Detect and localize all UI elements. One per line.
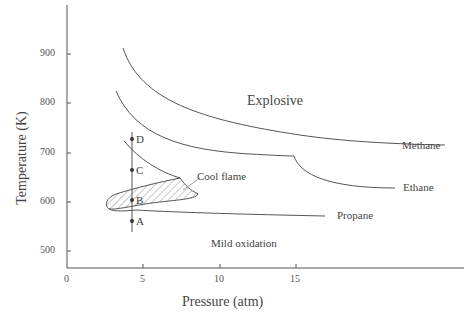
y-tick-700: 700: [40, 146, 55, 157]
mild-oxidation-label: Mild oxidation: [211, 237, 277, 249]
x-tick-10: 10: [214, 273, 224, 284]
point-b-label: B: [136, 194, 143, 206]
y-axis-title: Temperature (K): [14, 98, 30, 218]
x-tick-0: 0: [64, 273, 69, 284]
y-tick-900: 900: [40, 47, 55, 58]
methane-label: Methane: [402, 139, 440, 151]
point-a-label: A: [136, 215, 144, 227]
x-tick-5: 5: [140, 273, 145, 284]
cool-flame-region: [106, 178, 198, 209]
point-d-label: D: [136, 133, 144, 145]
x-ticks: [143, 264, 296, 268]
explosive-label: Explosive: [247, 93, 303, 109]
y-ticks: [67, 54, 71, 251]
y-tick-800: 800: [40, 96, 55, 107]
point-c-label: C: [136, 164, 143, 176]
y-tick-500: 500: [40, 244, 55, 255]
chart-plot-area: [0, 0, 472, 326]
ethane-label: Ethane: [403, 181, 434, 193]
cool-flame-label: Cool flame: [197, 170, 246, 182]
x-axis-title: Pressure (atm): [182, 294, 263, 310]
x-tick-15: 15: [290, 273, 300, 284]
y-tick-600: 600: [40, 195, 55, 206]
propane-label: Propane: [337, 209, 373, 221]
